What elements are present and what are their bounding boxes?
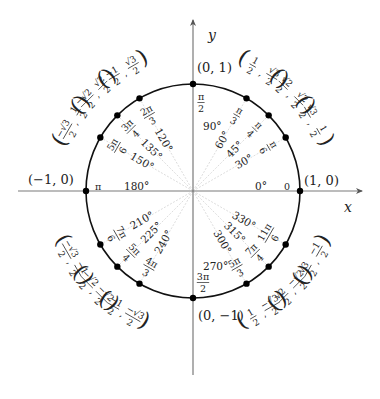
radian-label-270-numerator: 3π	[197, 271, 209, 282]
coord-y-denominator: 2	[125, 317, 135, 329]
coord-comma: ,	[70, 119, 80, 126]
radian-label-45: π4	[244, 119, 265, 140]
radian-label-90-numerator: π	[198, 91, 204, 102]
radian-label-120: 2π3	[138, 102, 160, 128]
coord-comma: ,	[257, 68, 264, 78]
radian-label-270: 3π2	[197, 271, 209, 294]
coord-comma: ,	[121, 68, 128, 78]
degree-label-270: 270°	[203, 260, 228, 272]
radian-label-210: 7π6	[104, 224, 130, 246]
coord-x-denominator: 2	[251, 317, 261, 329]
coord-x-denominator: 2	[67, 129, 79, 139]
radian-label-180: π	[95, 181, 101, 192]
radian-label-90-denominator: 2	[198, 103, 204, 114]
degree-label-90: 90°	[203, 120, 222, 132]
coord-x-denominator: 2	[245, 65, 255, 77]
coord-label-150: (−√32,12)	[46, 90, 96, 151]
axis-point-left	[83, 188, 89, 194]
point-30	[282, 134, 288, 140]
coord-comma: ,	[65, 258, 75, 265]
point-150	[97, 134, 103, 140]
radian-label-0: 0	[284, 181, 290, 192]
radian-label-0-text: 0	[284, 181, 290, 192]
degree-label-0: 0°	[255, 180, 267, 192]
point-330	[282, 241, 288, 247]
unit-circle-diagram: x y (1, 0)(0, 1)(−1, 0)(0, −1)00°π290°π1…	[0, 0, 380, 399]
radian-label-150: 5π6	[104, 136, 130, 158]
radian-label-30: π6	[257, 139, 281, 157]
axis-point-bottom	[190, 295, 196, 301]
point-225	[114, 263, 120, 269]
coord-y-denominator: 2	[289, 100, 300, 111]
axis-point-label-right: (1, 0)	[304, 173, 339, 188]
radian-label-180-text: π	[95, 181, 101, 192]
coord-label-60: (12,√32)	[233, 44, 294, 94]
point-240	[136, 280, 142, 286]
point-120	[136, 95, 142, 101]
radian-label-60: π3	[228, 104, 246, 128]
coord-comma: ,	[311, 258, 321, 265]
coord-y-denominator: 2	[102, 84, 113, 95]
radian-label-90: π2	[197, 91, 204, 114]
point-315	[265, 263, 271, 269]
coord-y-denominator: 2	[319, 249, 331, 259]
axis-point-label-top: (0, 1)	[197, 60, 232, 75]
point-45	[265, 112, 271, 118]
axis-point-right	[297, 188, 303, 194]
coord-y-denominator: 2	[307, 129, 319, 139]
coord-y-denominator: 2	[131, 65, 141, 77]
axis-point-label-left: (−1, 0)	[28, 172, 74, 187]
point-210	[97, 241, 103, 247]
x-axis-label: x	[344, 199, 352, 215]
point-300	[243, 280, 249, 286]
unit-circle-svg: x y (1, 0)(0, 1)(−1, 0)(0, −1)00°π290°π1…	[0, 0, 380, 399]
coord-comma: ,	[285, 90, 294, 99]
radian-label-300: 5π3	[226, 254, 248, 280]
radian-label-330: 11π6	[255, 221, 284, 248]
y-axis-label: y	[207, 27, 217, 43]
radian-label-240: 4π3	[138, 254, 160, 280]
radian-label-225: 5π4	[118, 241, 143, 266]
coord-x-denominator: 2	[56, 249, 68, 259]
point-60	[243, 95, 249, 101]
degree-label-180: 180°	[124, 180, 149, 192]
radian-label-315: 7π4	[243, 241, 268, 266]
axis-point-top	[190, 81, 196, 87]
point-135	[114, 112, 120, 118]
radian-label-270-denominator: 2	[200, 283, 206, 294]
coord-comma: ,	[306, 119, 316, 126]
coord-comma: ,	[92, 90, 101, 99]
